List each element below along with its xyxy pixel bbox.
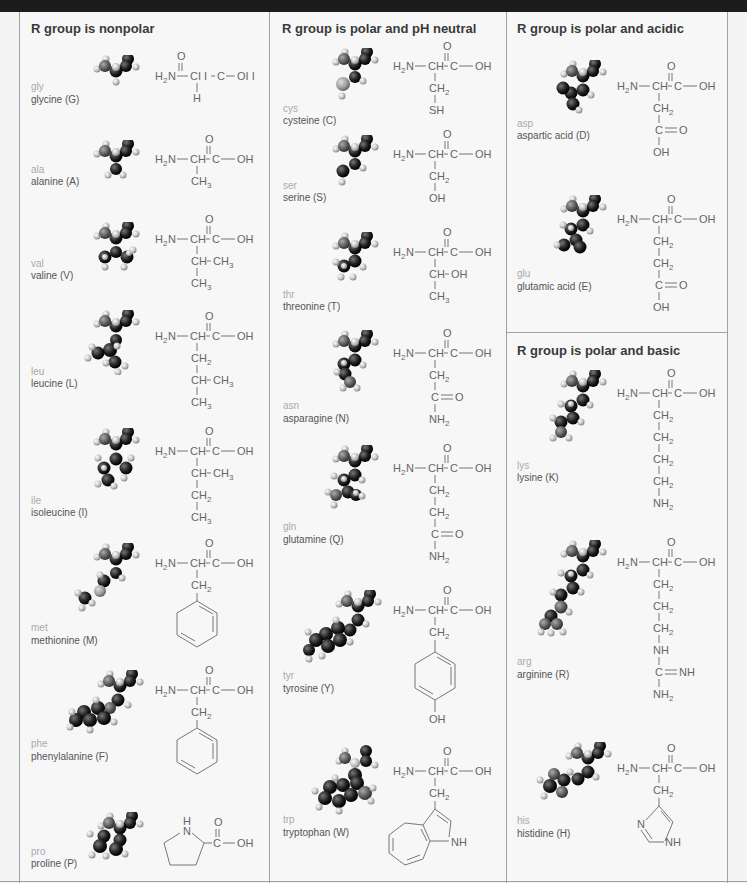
svg-text:H: H bbox=[393, 604, 401, 616]
svg-text:OH: OH bbox=[451, 268, 468, 280]
name-methionine: methionine (M) bbox=[31, 635, 98, 646]
abbr-phe: phe bbox=[31, 738, 48, 749]
abbr-val: val bbox=[31, 258, 44, 269]
formula-alanine: O H2N CH C OH CH3 bbox=[155, 133, 265, 193]
svg-text:CH: CH bbox=[191, 396, 207, 408]
svg-text:C: C bbox=[655, 666, 663, 678]
svg-text:C: C bbox=[450, 462, 458, 474]
abbr-ser: ser bbox=[283, 180, 297, 191]
molecule-model-histidine bbox=[530, 742, 615, 807]
svg-text:C: C bbox=[450, 60, 458, 72]
svg-text:O: O bbox=[443, 226, 452, 238]
molecule-model-methionine bbox=[70, 543, 150, 618]
svg-text:2: 2 bbox=[669, 628, 674, 637]
svg-text:OH: OH bbox=[699, 556, 716, 568]
svg-text:H: H bbox=[393, 60, 401, 72]
svg-text:2: 2 bbox=[207, 585, 212, 594]
svg-text:C: C bbox=[450, 148, 458, 160]
abbr-met: met bbox=[31, 622, 48, 633]
svg-text:CH: CH bbox=[428, 148, 444, 160]
svg-text:CH: CH bbox=[653, 622, 669, 634]
name-tryptophan: tryptophan (W) bbox=[283, 827, 349, 838]
molecule-model-alanine bbox=[86, 140, 146, 190]
svg-text:2: 2 bbox=[445, 793, 450, 802]
section-divider bbox=[507, 332, 727, 333]
svg-text:CI I: CI I bbox=[190, 70, 207, 82]
svg-text:CH: CH bbox=[429, 626, 445, 638]
svg-text:CH: CH bbox=[191, 511, 207, 523]
svg-text:CH: CH bbox=[652, 213, 668, 225]
svg-text:N: N bbox=[630, 762, 638, 774]
svg-text:N: N bbox=[168, 445, 176, 457]
svg-text:C: C bbox=[431, 528, 439, 540]
svg-text:H: H bbox=[617, 80, 625, 92]
name-threonine: threonine (T) bbox=[283, 301, 340, 312]
svg-text:2: 2 bbox=[445, 176, 450, 185]
svg-text:C: C bbox=[655, 124, 663, 136]
name-phenylalanine: phenylalanine (F) bbox=[31, 751, 108, 762]
svg-text:CH: CH bbox=[190, 330, 206, 342]
name-leucine: leucine (L) bbox=[31, 378, 78, 389]
name-valine: valine (V) bbox=[31, 270, 73, 281]
column-divider bbox=[727, 12, 728, 883]
svg-text:CH: CH bbox=[428, 462, 444, 474]
svg-text:CH: CH bbox=[190, 233, 206, 245]
abbr-trp: trp bbox=[283, 814, 295, 825]
abbr-leu: leu bbox=[31, 366, 44, 377]
svg-text:CH: CH bbox=[190, 445, 206, 457]
svg-text:N: N bbox=[406, 60, 414, 72]
svg-text:H: H bbox=[193, 92, 201, 104]
svg-text:2: 2 bbox=[669, 584, 674, 593]
svg-text:H: H bbox=[155, 233, 163, 245]
svg-text:O: O bbox=[205, 664, 214, 676]
svg-text:OH: OH bbox=[429, 192, 446, 204]
name-arginine: arginine (R) bbox=[517, 669, 569, 680]
svg-text:N: N bbox=[630, 80, 638, 92]
svg-text:OH: OH bbox=[699, 762, 716, 774]
svg-text:3: 3 bbox=[207, 517, 212, 526]
svg-text:CH: CH bbox=[653, 600, 669, 612]
svg-text:C: C bbox=[450, 604, 458, 616]
formula-valine: O H2N CH C OH CHCH3 CH3 bbox=[155, 213, 265, 298]
svg-text:2: 2 bbox=[669, 481, 674, 490]
formula-glutamine: O H2N CH C OH CH2 CH2 C O NH2 bbox=[393, 442, 503, 572]
svg-text:CH: CH bbox=[191, 255, 207, 267]
svg-text:C: C bbox=[674, 387, 682, 399]
name-cysteine: cysteine (C) bbox=[283, 115, 336, 126]
svg-text:SH: SH bbox=[429, 104, 444, 116]
svg-text:2: 2 bbox=[445, 88, 450, 97]
abbr-lys: lys bbox=[517, 460, 529, 471]
abbr-thr: thr bbox=[283, 289, 295, 300]
svg-text:CH: CH bbox=[428, 60, 444, 72]
svg-text:H: H bbox=[393, 765, 401, 777]
heading-polar-basic: R group is polar and basic bbox=[517, 343, 680, 358]
bottom-border bbox=[0, 881, 747, 882]
svg-text:CH: CH bbox=[429, 290, 445, 302]
svg-text:CH: CH bbox=[429, 506, 445, 518]
name-glutamine: glutamine (Q) bbox=[283, 534, 344, 545]
svg-text:C: C bbox=[674, 80, 682, 92]
svg-text:NH: NH bbox=[653, 497, 669, 509]
formula-cysteine: O H2N CH C OH CH2 SH bbox=[393, 40, 503, 125]
svg-text:OH: OH bbox=[237, 233, 254, 245]
svg-text:O: O bbox=[205, 310, 214, 322]
abbr-cys: cys bbox=[283, 103, 298, 114]
svg-text:CH: CH bbox=[429, 268, 445, 280]
svg-text:H: H bbox=[393, 462, 401, 474]
molecule-model-asparagine bbox=[325, 330, 385, 395]
svg-text:H: H bbox=[393, 148, 401, 160]
abbr-his: his bbox=[517, 815, 530, 826]
svg-text:3: 3 bbox=[229, 380, 234, 389]
svg-text:N: N bbox=[183, 825, 191, 837]
name-glutamic-acid: glutamic acid (E) bbox=[517, 281, 591, 292]
svg-text:CH: CH bbox=[191, 706, 207, 718]
svg-text:O: O bbox=[679, 124, 688, 136]
svg-text:H: H bbox=[155, 557, 163, 569]
svg-text:CH: CH bbox=[191, 489, 207, 501]
svg-text:CH: CH bbox=[428, 604, 444, 616]
svg-text:2: 2 bbox=[207, 495, 212, 504]
molecule-model-arginine bbox=[535, 540, 615, 650]
svg-text:N: N bbox=[406, 347, 414, 359]
svg-text:CH: CH bbox=[653, 578, 669, 590]
molecule-model-serine bbox=[325, 135, 385, 190]
